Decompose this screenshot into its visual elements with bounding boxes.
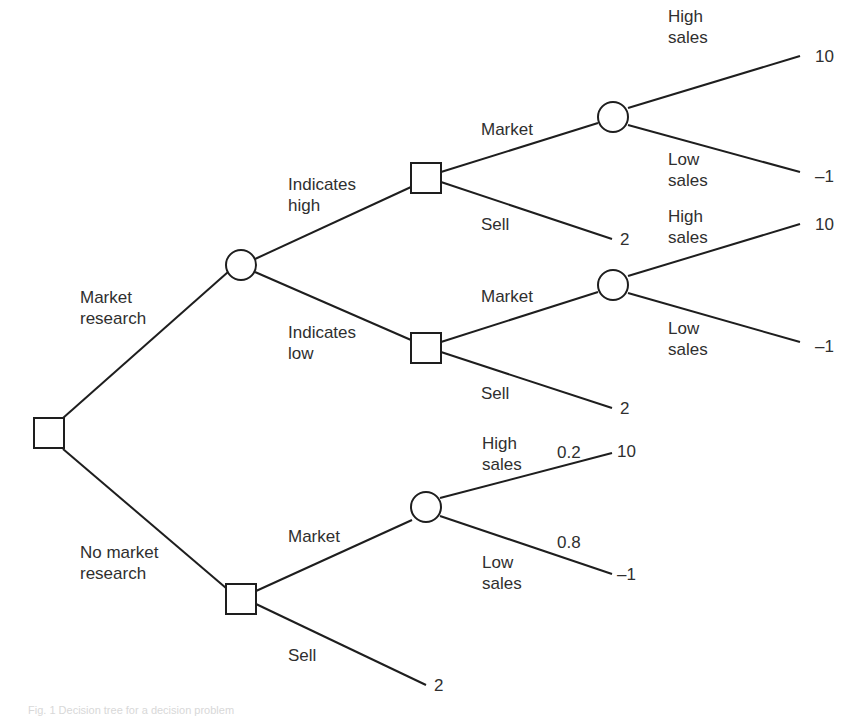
label-indicates-high: Indicates high [288,174,356,216]
payoff-1: 10 [815,46,834,67]
probability-high-sales: 0.2 [557,442,581,463]
label-market-1: Market [481,119,533,140]
payoff-8: –1 [617,564,636,585]
payoff-5: –1 [815,336,834,357]
bottom-chance-node [411,492,441,522]
no-research-decision-node [226,584,256,614]
label-high-sales-3: High sales [482,433,522,475]
research-chance-node [226,250,256,280]
label-sell-2: Sell [481,383,509,404]
mid-chance-node [598,270,628,300]
label-no-market-research: No market research [80,542,158,584]
label-market-3: Market [288,526,340,547]
label-high-sales-1: High sales [668,6,708,48]
label-market-2: Market [481,286,533,307]
high-decision-node [411,163,441,193]
label-high-sales-2: High sales [668,206,708,248]
label-indicates-low: Indicates low [288,322,356,364]
low-decision-node [411,333,441,363]
payoff-7: 10 [617,441,636,462]
payoff-3: 2 [620,229,629,250]
label-sell-3: Sell [288,645,316,666]
payoff-6: 2 [620,398,629,419]
root-decision-node [34,418,64,448]
payoff-9: 2 [434,675,443,696]
payoff-4: 10 [815,214,834,235]
label-low-sales-1: Low sales [668,149,708,191]
label-sell-1: Sell [481,214,509,235]
decision-tree-lines [0,0,862,727]
probability-low-sales: 0.8 [557,532,581,553]
label-market-research: Market research [80,287,146,329]
top-chance-node [598,102,628,132]
label-low-sales-3: Low sales [482,552,522,594]
payoff-2: –1 [815,166,834,187]
figure-caption: Fig. 1 Decision tree for a decision prob… [28,704,234,716]
label-low-sales-2: Low sales [668,318,708,360]
